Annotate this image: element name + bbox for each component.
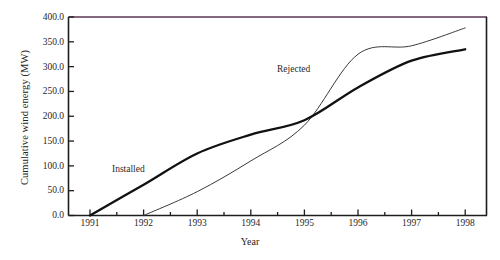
- series-annotation-installed: Installed: [112, 164, 145, 174]
- y-axis-tick-labels: 400.0 350.0 300.0 250.0 200.0 150.0 100.…: [18, 0, 64, 260]
- x-axis-label: Year: [0, 236, 500, 247]
- x-tick-label: 1992: [134, 218, 153, 228]
- y-tick-label: 250.0: [20, 86, 64, 96]
- y-tick-label: 50.0: [20, 185, 64, 195]
- y-tick-label: 100.0: [20, 161, 64, 171]
- wind-energy-figure: Cumulative wind energy (MW) 400.0 350.0 …: [0, 0, 500, 260]
- x-tick-label: 1996: [349, 218, 368, 228]
- x-tick-label: 1993: [188, 218, 207, 228]
- y-axis-ticks: [69, 17, 75, 216]
- axis-frame: [69, 17, 488, 216]
- y-tick-label: 200.0: [20, 111, 64, 121]
- y-tick-label: 400.0: [20, 12, 64, 22]
- y-tick-label: 150.0: [20, 136, 64, 146]
- series-annotation-rejected: Rejected: [277, 64, 310, 74]
- series-line-installed: [90, 49, 465, 215]
- x-tick-label: 1994: [241, 218, 260, 228]
- x-tick-label: 1997: [402, 218, 421, 228]
- x-tick-label: 1995: [295, 218, 314, 228]
- y-tick-label: 300.0: [20, 62, 64, 72]
- x-tick-label: 1991: [81, 218, 100, 228]
- series-line-rejected: [144, 28, 466, 216]
- y-tick-label: 350.0: [20, 37, 64, 47]
- y-tick-label: 0.0: [20, 210, 64, 220]
- x-tick-label: 1998: [456, 218, 475, 228]
